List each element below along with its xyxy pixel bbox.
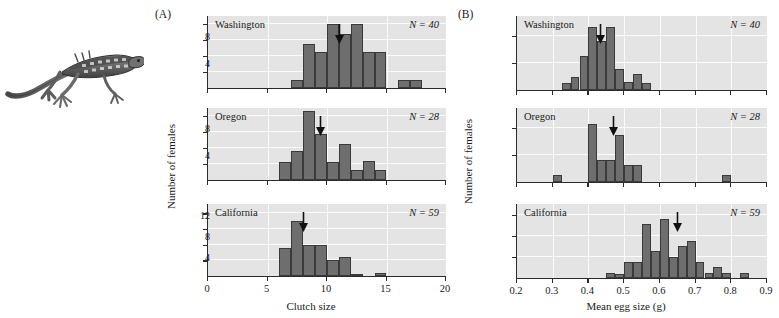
- histogram-bar: [669, 257, 678, 278]
- x-axis-tick-label: 0.9: [759, 285, 772, 296]
- x-axis-tick-mark: [695, 279, 696, 283]
- histogram-bar: [606, 273, 615, 278]
- y-axis-tick-mark: [203, 72, 207, 73]
- x-axis-tick-mark: [386, 181, 387, 185]
- histogram-bar: [687, 241, 696, 278]
- x-axis-tick-label: 0.8: [724, 285, 737, 296]
- histogram-bar: [606, 160, 615, 182]
- histogram-bar: [327, 260, 339, 276]
- histogram-bar: [339, 144, 351, 180]
- gridline-vertical: [696, 16, 697, 90]
- y-axis-tick-mark: [203, 245, 207, 246]
- histogram-bar: [327, 162, 339, 180]
- histogram-bar: [303, 44, 315, 88]
- panel-b: (B) Number of females Mean egg size (g) …: [458, 4, 776, 316]
- gridline-vertical: [660, 16, 661, 90]
- x-axis-tick-label: 0.7: [688, 285, 701, 296]
- subpanel-region-label: Washington: [215, 19, 265, 30]
- y-axis-tick-mark: [512, 36, 516, 37]
- histogram-bar: [351, 274, 363, 277]
- gridline-vertical: [268, 108, 269, 180]
- histogram-bar: [562, 83, 571, 90]
- histogram-bar: [705, 273, 714, 278]
- histogram-bar: [363, 52, 375, 88]
- mean-arrow-icon: [672, 212, 683, 238]
- histogram-bar: [615, 69, 624, 90]
- panel-b-y-axis-label: Number of females: [462, 119, 474, 204]
- x-axis-tick-mark: [659, 279, 660, 283]
- x-axis-tick-mark: [730, 91, 731, 95]
- histogram-bar: [713, 267, 722, 278]
- x-axis-tick-mark: [326, 181, 327, 185]
- figure-root: (A) Number of females Clutch size Washin…: [0, 0, 779, 318]
- y-axis-tick-label: 8: [184, 123, 210, 134]
- x-axis-tick-mark: [730, 183, 731, 187]
- y-axis-tick-label: 8: [184, 31, 210, 42]
- y-axis-tick-mark: [203, 116, 207, 117]
- x-axis-tick-label: 10: [321, 283, 332, 294]
- x-axis-tick-mark: [267, 89, 268, 93]
- gridline-vertical: [268, 16, 269, 88]
- histogram-bar: [315, 52, 327, 88]
- panel-b-tag: (B): [458, 8, 473, 20]
- x-axis-tick-mark: [386, 277, 387, 281]
- mean-arrow-icon: [608, 116, 619, 142]
- histogram-bar: [291, 151, 303, 180]
- histogram-bar: [398, 80, 410, 88]
- x-axis-tick-mark: [207, 277, 208, 281]
- subpanel-region-label: Oregon: [524, 111, 556, 122]
- x-axis-tick-mark: [207, 89, 208, 93]
- x-axis-tick-mark: [326, 277, 327, 281]
- plot-area: OregonN = 28: [207, 108, 446, 181]
- sample-size-label: N = 59: [730, 207, 760, 218]
- x-axis-tick-mark: [516, 183, 517, 187]
- y-axis-tick-label: 4: [184, 58, 210, 69]
- x-axis-tick-mark: [623, 183, 624, 187]
- histogram-bar: [303, 245, 315, 276]
- x-axis-tick-mark: [659, 183, 660, 187]
- subpanel-region-label: Oregon: [215, 111, 247, 122]
- y-axis-tick-mark: [203, 164, 207, 165]
- gridline-vertical: [387, 16, 388, 88]
- x-axis-tick-mark: [587, 279, 588, 283]
- y-axis-tick-mark: [512, 128, 516, 129]
- histogram-bar: [624, 262, 633, 278]
- histogram-bar: [375, 273, 387, 276]
- x-axis-tick-mark: [552, 183, 553, 187]
- gridline-vertical: [588, 204, 589, 278]
- x-axis-tick-label: 0.6: [652, 285, 665, 296]
- histogram-bar: [375, 170, 387, 180]
- plot-area: CaliforniaN = 59: [516, 204, 767, 279]
- gridline-vertical: [696, 108, 697, 182]
- histogram-bar: [642, 83, 651, 90]
- histogram-bar: [279, 162, 291, 180]
- histogram-bar: [633, 74, 642, 90]
- x-axis-tick-label: 0.4: [581, 285, 594, 296]
- x-axis-tick-mark: [659, 91, 660, 95]
- x-axis-tick-mark: [552, 279, 553, 283]
- x-axis-tick-label: 5: [264, 283, 269, 294]
- histogram-bar: [375, 52, 387, 88]
- y-axis-tick-label: 12: [184, 209, 210, 220]
- sample-size-label: N = 40: [409, 19, 439, 30]
- histogram-bar: [678, 246, 687, 278]
- histogram-bar: [642, 224, 651, 278]
- subpanel-region-label: California: [215, 207, 258, 218]
- histogram-bar: [624, 82, 633, 90]
- x-axis-tick-label: 0.5: [617, 285, 630, 296]
- gridline-horizontal: [517, 154, 767, 155]
- histogram-bar: [722, 175, 731, 182]
- panel-a-y-axis-label: Number of females: [165, 124, 177, 209]
- x-axis-tick-mark: [552, 91, 553, 95]
- plot-area: CaliforniaN = 59: [207, 204, 446, 277]
- gridline-horizontal: [517, 127, 767, 128]
- histogram-bar: [363, 161, 375, 180]
- y-axis-tick-mark: [512, 63, 516, 64]
- y-axis-tick-mark: [512, 215, 516, 216]
- gridline-vertical: [387, 108, 388, 180]
- histogram-bar: [696, 262, 705, 278]
- x-axis-tick-mark: [267, 277, 268, 281]
- histogram-bar: [553, 175, 562, 182]
- histogram-bar: [660, 219, 669, 278]
- histogram-bar: [339, 257, 351, 276]
